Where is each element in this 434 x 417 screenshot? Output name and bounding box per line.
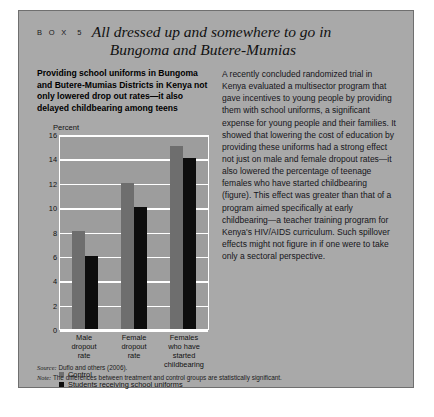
plot-area: 0246810121416	[59, 135, 209, 330]
bar	[183, 158, 196, 329]
bar-chart: Percent 0246810121416 MaledropoutrateFem…	[37, 123, 212, 371]
figure-footer: Source: Duflo and others (2006). Note: T…	[37, 363, 397, 382]
box-title: All dressed up and somewhere to go inBun…	[92, 23, 360, 60]
legend-swatch	[59, 382, 64, 387]
body-text: A recently concluded randomized trial in…	[222, 68, 397, 262]
source-line: Source: Duflo and others (2006).	[37, 363, 397, 373]
bar-group	[72, 136, 98, 329]
y-axis-tick: 8	[53, 228, 57, 237]
note-label: Note:	[37, 374, 51, 381]
y-axis-tick: 0	[53, 326, 57, 335]
figure-caption: Providing school uniforms in Bungoma and…	[37, 68, 212, 115]
y-axis-tick: 16	[49, 131, 57, 140]
bar-group	[121, 136, 147, 329]
bar-groups	[60, 136, 208, 329]
note-line: Note: The differences between treatment …	[37, 373, 397, 383]
box-panel: B O X 5All dressed up and somewhere to g…	[18, 10, 414, 388]
y-axis-tick: 10	[49, 204, 57, 213]
y-axis-tick: 6	[53, 252, 57, 261]
source-text: Duflo and others (2006).	[58, 364, 127, 371]
gridline: 0	[60, 330, 208, 332]
right-column: A recently concluded randomized trial in…	[222, 68, 397, 262]
bar	[134, 207, 147, 329]
y-axis-tick: 4	[53, 277, 57, 286]
bar	[72, 231, 85, 329]
note-text: The differences between treatment and co…	[53, 374, 282, 381]
bar	[121, 183, 134, 329]
bar-group	[170, 136, 196, 329]
box-header: B O X 5All dressed up and somewhere to g…	[37, 23, 397, 60]
bar	[170, 146, 183, 329]
bar	[85, 256, 98, 329]
y-axis-tick: 14	[49, 155, 57, 164]
box-label: B O X 5	[37, 23, 84, 37]
y-axis-tick: 2	[53, 301, 57, 310]
source-label: Source:	[37, 364, 57, 371]
y-axis-tick: 12	[49, 179, 57, 188]
left-column: Providing school uniforms in Bungoma and…	[37, 68, 212, 371]
